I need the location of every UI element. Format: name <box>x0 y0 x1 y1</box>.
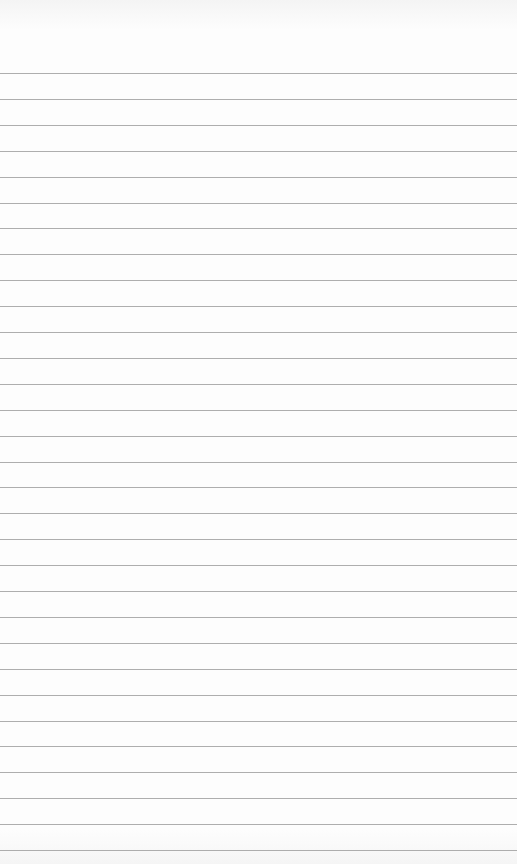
ruled-line <box>0 99 517 100</box>
ruled-line <box>0 436 517 437</box>
ruled-line <box>0 824 517 825</box>
lined-paper <box>0 0 517 864</box>
ruled-line <box>0 410 517 411</box>
ruled-line <box>0 772 517 773</box>
ruled-line <box>0 203 517 204</box>
ruled-line <box>0 332 517 333</box>
ruled-line <box>0 746 517 747</box>
ruled-line <box>0 565 517 566</box>
ruled-line <box>0 73 517 74</box>
ruled-line <box>0 177 517 178</box>
ruled-line <box>0 591 517 592</box>
ruled-line <box>0 850 517 851</box>
ruled-line <box>0 228 517 229</box>
ruled-line <box>0 462 517 463</box>
ruled-line <box>0 306 517 307</box>
ruled-line <box>0 669 517 670</box>
ruled-line <box>0 358 517 359</box>
ruled-line <box>0 125 517 126</box>
ruled-line <box>0 617 517 618</box>
ruled-line <box>0 280 517 281</box>
ruled-line <box>0 487 517 488</box>
ruled-line <box>0 254 517 255</box>
ruled-line <box>0 513 517 514</box>
ruled-line <box>0 695 517 696</box>
ruled-line <box>0 384 517 385</box>
ruled-line <box>0 539 517 540</box>
ruled-line <box>0 151 517 152</box>
ruled-line <box>0 798 517 799</box>
ruled-line <box>0 643 517 644</box>
ruled-line <box>0 721 517 722</box>
